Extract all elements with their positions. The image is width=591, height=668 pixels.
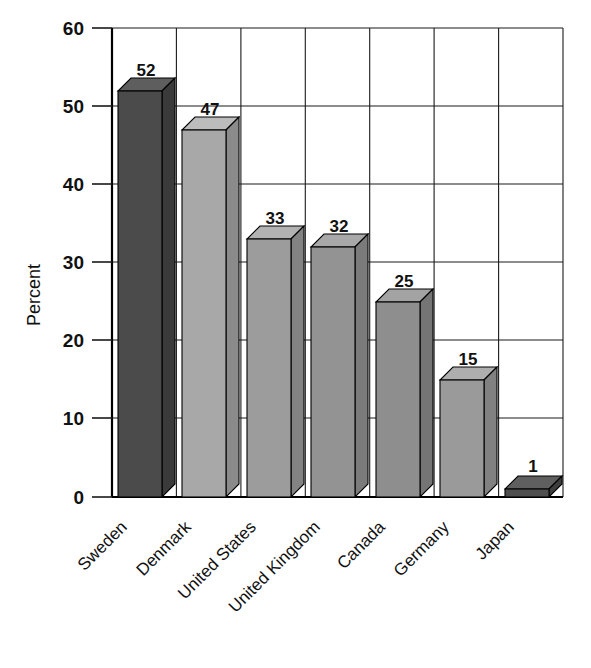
y-tick-label: 0 (73, 487, 84, 508)
bar-front-face (247, 239, 291, 497)
y-axis-title: Percent (24, 264, 44, 326)
y-tick-label: 30 (63, 252, 84, 273)
bar-front-face (118, 91, 162, 497)
bar-germany (440, 367, 497, 497)
bar-value-label: 52 (137, 61, 156, 80)
bar-front-face (376, 302, 420, 497)
bar-side-face (162, 78, 175, 497)
y-tick-label: 40 (63, 174, 84, 195)
bar-value-label: 33 (266, 209, 285, 228)
bar-front-face (440, 380, 484, 497)
bar-value-label: 1 (528, 457, 537, 476)
y-axis-tick-labels: 60 50 40 30 20 10 0 (63, 18, 84, 508)
bar-side-face (226, 117, 239, 497)
x-tick-label-canada: Canada (333, 517, 389, 573)
bar-united-states (247, 226, 304, 497)
y-tick-label: 50 (63, 96, 84, 117)
bar-front-face (505, 489, 549, 497)
x-tick-label-denmark: Denmark (133, 517, 196, 580)
x-axis-tick-labels: Sweden Denmark United States United King… (74, 517, 518, 616)
bar-side-face (484, 367, 497, 497)
bar-value-label: 15 (459, 350, 478, 369)
x-tick-label-sweden: Sweden (74, 517, 131, 574)
bar-front-face (311, 247, 355, 497)
bar-denmark (182, 117, 239, 497)
bar-value-label: 47 (201, 100, 220, 119)
bar-value-label: 32 (330, 217, 349, 236)
bar-united-kingdom (311, 234, 368, 497)
bar-value-label: 25 (395, 272, 414, 291)
bar-front-face (182, 130, 226, 497)
y-tick-label: 10 (63, 408, 84, 429)
bar-side-face (291, 226, 304, 497)
bar-chart: 60 50 40 30 20 10 0 Percent 52 47 (0, 0, 591, 668)
x-tick-label-japan: Japan (472, 517, 518, 563)
bar-side-face (355, 234, 368, 497)
y-tick-label: 20 (63, 330, 84, 351)
x-tick-label-germany: Germany (390, 517, 453, 580)
y-tick-label: 60 (63, 18, 84, 39)
y-axis-ticks (92, 28, 112, 497)
bar-canada (376, 289, 433, 497)
bar-sweden (118, 78, 175, 497)
bar-side-face (420, 289, 433, 497)
chart-canvas: 60 50 40 30 20 10 0 Percent 52 47 (0, 0, 591, 668)
